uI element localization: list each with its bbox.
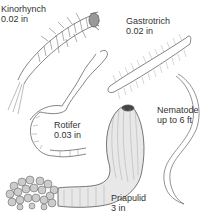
gastrotrich-drawing xyxy=(108,34,191,99)
label-kinorhynch: Kinorhynch 0.02 in xyxy=(1,4,46,24)
rotifer-drawing xyxy=(30,50,107,157)
rotifer-name: Rotifer xyxy=(54,120,81,130)
kinorhynch-size: 0.02 in xyxy=(1,14,46,24)
kinorhynch-drawing xyxy=(8,12,100,114)
label-nematode: Nematode up to 6 ft xyxy=(157,105,199,125)
kinorhynch-name: Kinorhynch xyxy=(1,4,46,14)
priapulid-name: Priapulid xyxy=(111,193,146,203)
gastrotrich-name: Gastrotrich xyxy=(126,16,170,26)
priapulid-tail-tuft xyxy=(6,176,58,210)
nematode-size: up to 6 ft xyxy=(157,115,199,125)
label-gastrotrich: Gastrotrich 0.02 in xyxy=(126,16,170,36)
label-rotifer: Rotifer 0.03 in xyxy=(54,120,81,140)
priapulid-size: 3 in xyxy=(111,203,146,212)
gastrotrich-size: 0.02 in xyxy=(126,26,170,36)
nematode-name: Nematode xyxy=(157,105,199,115)
label-priapulid: Priapulid 3 in xyxy=(111,193,146,212)
nematode-drawing xyxy=(164,74,199,204)
rotifer-size: 0.03 in xyxy=(54,130,81,140)
